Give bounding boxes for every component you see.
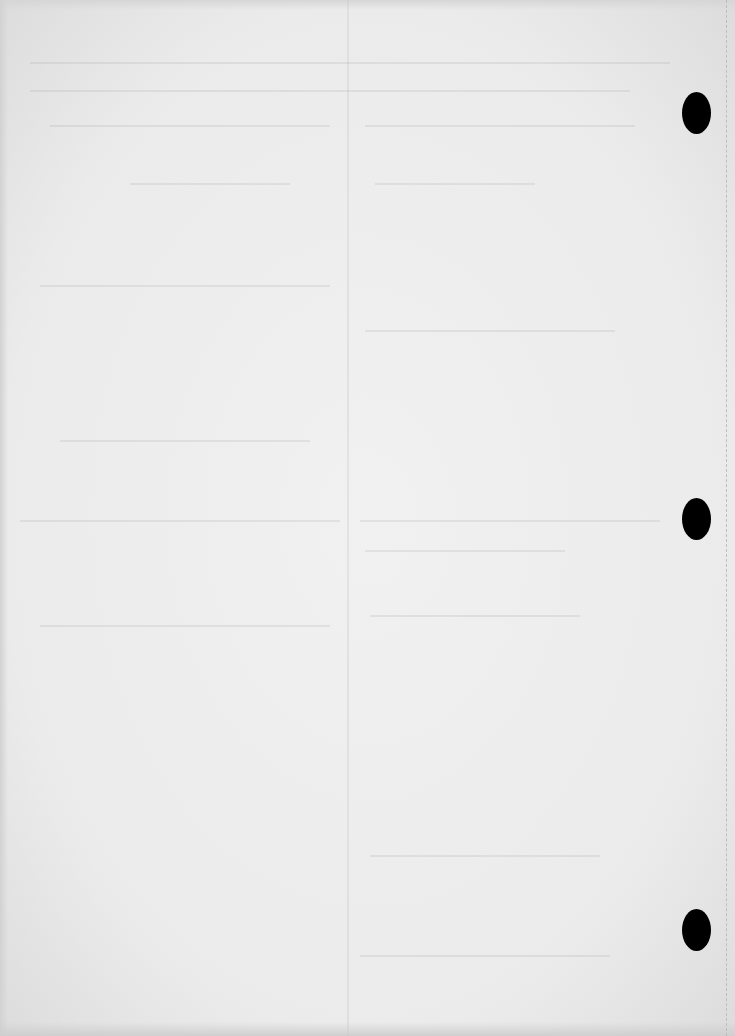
- bleed-through-line: [30, 90, 630, 92]
- punch-hole-top: [682, 92, 711, 134]
- bleed-through-line: [40, 285, 330, 287]
- punch-hole-bottom: [682, 909, 711, 951]
- bleed-through-line: [360, 955, 610, 957]
- bleed-through-line: [30, 62, 670, 64]
- bleed-through-line: [40, 625, 330, 627]
- bleed-through-line: [370, 855, 600, 857]
- bleed-through-line: [370, 615, 580, 617]
- center-fold: [347, 0, 349, 1036]
- bleed-through-line: [50, 125, 330, 127]
- bleed-through-line: [130, 183, 290, 185]
- bleed-through-line: [360, 520, 660, 522]
- punch-hole-middle: [682, 498, 711, 540]
- bleed-through-line: [20, 520, 340, 522]
- bleed-through-line: [365, 330, 615, 332]
- bleed-through-line: [60, 440, 310, 442]
- page-edge-left: [0, 0, 8, 1036]
- bleed-through-line: [365, 125, 635, 127]
- scanned-page: [0, 0, 735, 1036]
- page-edge-top: [0, 0, 735, 10]
- perforation-line: [726, 0, 727, 1036]
- bleed-through-line: [365, 550, 565, 552]
- page-edge-bottom: [0, 1022, 735, 1036]
- bleed-through-line: [375, 183, 535, 185]
